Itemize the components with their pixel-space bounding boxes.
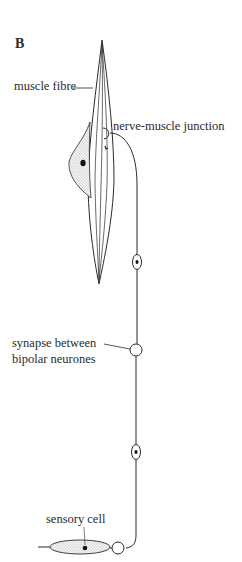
muscle-fibre [88,40,114,284]
sensory-cell-label: sensory cell [46,512,105,527]
bipolar-neurone-upper [133,255,142,270]
sensory-nucleus [83,546,88,551]
bipolar-neurone-lower [132,445,141,460]
sensory-synapse-circle [112,542,124,554]
synapse-leader-line [104,344,130,349]
synapse-circle [130,344,142,356]
synapse-label-line2: bipolar neurones [12,352,96,367]
nerve-muscle-junction-label: nerve-muscle junction [113,119,224,134]
sensory-cell [38,527,112,554]
muscle-fibre-label: muscle fibre [14,79,76,94]
muscle-nucleus-region [69,122,91,198]
panel-label: B [15,36,24,51]
synapse-label-line1: synapse between [12,336,96,351]
muscle-nucleus [80,160,85,167]
